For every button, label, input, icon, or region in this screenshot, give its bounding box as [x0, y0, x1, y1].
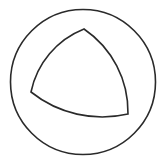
inner-curved-triangle — [31, 29, 128, 117]
outer-circle — [11, 10, 156, 155]
diagram-svg — [0, 0, 167, 162]
diagram-canvas — [0, 0, 167, 162]
